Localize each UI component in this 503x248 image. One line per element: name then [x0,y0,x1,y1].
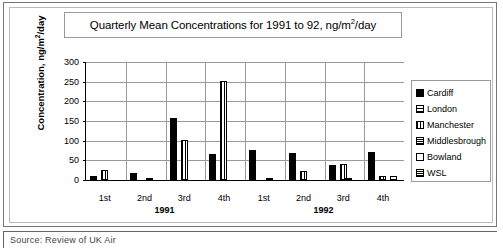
bar-middlesbrough-3rd [345,178,352,180]
bar-group [166,62,206,180]
bar-group [285,62,325,180]
legend-swatch-icon-cardiff [416,89,424,97]
bar-middlesbrough-1st [266,178,273,180]
y-axis-tick-200: 200 [64,96,79,106]
bar-middlesbrough-2nd [146,178,153,180]
y-axis-title-tail: /day [35,16,46,35]
legend-swatch-icon-manchester [416,121,424,129]
chart-page: Quarterly Mean Concentrations for 1991 t… [0,0,503,248]
bar-manchester-4th [220,81,227,181]
chart-title-tail: /day [355,19,376,31]
bar-group [126,62,166,180]
bar-manchester-1st [101,170,108,180]
bar-cardiff-3rd [170,118,177,180]
legend-swatch-icon-bowland [416,153,424,161]
chart-legend: CardiffLondonManchesterMiddlesbroughBowl… [411,80,491,182]
x-axis-label-1: 2nd [137,193,152,203]
y-axis-title: Concentration, ng/m2/day [35,7,49,139]
bar-cardiff-2nd [130,173,137,180]
y-axis-tick-150: 150 [64,116,79,126]
bar-group [86,62,126,180]
y-axis-tick-labels: 050100150200250300 [60,62,82,180]
bar-group [364,62,404,180]
chart-title: Quarterly Mean Concentrations for 1991 t… [90,19,376,31]
x-axis-label-2: 3rd [178,193,191,203]
bar-manchester-2nd [300,171,307,180]
x-axis-tick-labels: 1st2nd3rd4th1st2nd3rd4th [85,193,405,205]
legend-label: London [427,105,457,114]
x-axis-label-7: 4th [377,193,390,203]
legend-item-cardiff[interactable]: Cardiff [416,85,487,101]
legend-swatch-icon-london [416,105,424,113]
y-axis-tick-100: 100 [64,136,79,146]
bar-manchester-3rd [181,140,188,180]
legend-label: Bowland [427,153,462,162]
x-axis-label-5: 2nd [296,193,311,203]
y-axis-title-main: Concentration, ng/m [35,38,46,130]
plot-wrapper: 050100150200250300 [60,62,405,192]
legend-item-wsl[interactable]: WSL [416,165,487,181]
bar-group [245,62,285,180]
x-axis-label-0: 1st [99,193,111,203]
bar-group [325,62,365,180]
bar-cardiff-1st [249,150,256,180]
y-axis-tick-50: 50 [69,155,79,165]
bar-cardiff-3rd [329,165,336,180]
y-axis-title-superscript: 2 [34,35,41,39]
legend-swatch-icon-middlesbrough [416,137,424,145]
legend-item-london[interactable]: London [416,101,487,117]
chart-title-main: Quarterly Mean Concentrations for 1991 t… [90,19,351,31]
legend-label: Cardiff [427,89,453,98]
legend-item-bowland[interactable]: Bowland [416,149,487,165]
legend-swatch-icon-wsl [416,169,424,177]
bar-cardiff-2nd [289,153,296,180]
x-axis-label-3: 4th [218,193,231,203]
bar-cardiff-4th [368,152,375,180]
x-axis-year-1991: 1991 [154,205,174,215]
x-axis-label-6: 3rd [337,193,350,203]
legend-label: WSL [427,169,447,178]
source-caption: Source: Review of UK Air [10,235,116,245]
x-axis-label-4: 1st [258,193,270,203]
y-axis-tick-300: 300 [64,57,79,67]
bar-cardiff-1st [90,176,97,180]
chart-title-box: Quarterly Mean Concentrations for 1991 t… [64,12,402,38]
caption-strip: Source: Review of UK Air [3,231,497,248]
bar-bowland-4th [390,176,397,180]
legend-item-manchester[interactable]: Manchester [416,117,487,133]
legend-item-middlesbrough[interactable]: Middlesbrough [416,133,487,149]
bar-manchester-4th [379,176,386,180]
bar-group [205,62,245,180]
plot-area [85,62,404,181]
legend-label: Middlesbrough [427,137,486,146]
legend-label: Manchester [427,121,474,130]
y-axis-tick-0: 0 [74,175,79,185]
bar-cardiff-4th [209,154,216,180]
y-axis-tick-250: 250 [64,77,79,87]
x-axis-group-labels: 19911992 [85,205,405,217]
x-axis-year-1992: 1992 [313,205,333,215]
y-axis-tickmark [83,180,86,181]
